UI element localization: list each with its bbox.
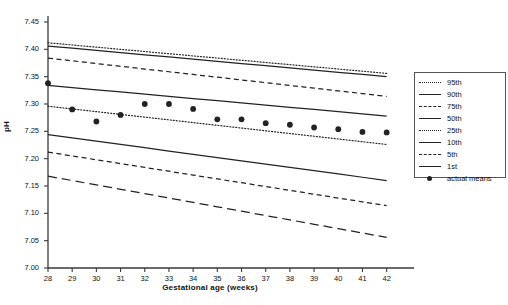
data-point-marker [69,107,75,113]
x-tick-label: 33 [157,274,181,283]
x-tick-label: 37 [254,274,278,283]
legend-item-90th: 90th [418,88,501,100]
legend-item-label: actual means [447,174,492,183]
legend-item-label: 75th [447,102,462,111]
legend-item-25th: 25th [418,124,501,136]
x-tick-label: 40 [326,274,350,283]
series-line-95th [48,43,387,74]
legend-item-label: 50th [447,114,462,123]
legend-item-1st: 1st [418,160,501,172]
data-point-marker [166,101,172,107]
x-tick-label: 30 [84,274,108,283]
x-tick-label: 42 [375,274,399,283]
x-tick-label: 28 [36,274,60,283]
y-tick-label: 7.05 [5,236,39,245]
legend-item-label: 1st [447,162,457,171]
x-tick-label: 41 [350,274,374,283]
data-point-marker [335,126,341,132]
legend-item-actual-means: actual means [418,172,501,184]
x-tick-label: 31 [109,274,133,283]
legend-line-icon [418,137,442,148]
x-tick-label: 38 [278,274,302,283]
data-point-marker [190,106,196,112]
legend-item-10th: 10th [418,136,501,148]
y-tick-label: 7.00 [5,263,39,272]
data-point-marker [287,122,293,128]
y-tick-label: 7.10 [5,208,39,217]
y-tick-label: 7.40 [5,44,39,53]
data-point-marker [239,116,245,122]
legend-item-label: 25th [447,126,462,135]
x-tick-label: 34 [181,274,205,283]
legend-item-50th: 50th [418,112,501,124]
x-tick-label: 36 [230,274,254,283]
y-tick-label: 7.45 [5,17,39,26]
y-tick-label: 7.25 [5,126,39,135]
y-tick-label: 7.20 [5,154,39,163]
data-point-marker [214,116,220,122]
x-tick-label: 35 [205,274,229,283]
legend-line-icon [418,77,442,88]
legend-line-icon [418,125,442,136]
x-axis-title: Gestational age (weeks) [0,283,420,292]
data-point-marker [311,125,317,131]
data-point-marker [142,101,148,107]
legend-item-label: 95th [447,78,462,87]
series-line-10th [48,135,387,181]
legend-line-icon [418,101,442,112]
data-point-marker [360,129,366,135]
x-tick-label: 29 [60,274,84,283]
legend-line-icon [418,89,442,100]
legend-item-label: 5th [447,150,457,159]
data-point-marker [45,80,51,86]
legend-item-label: 10th [447,138,462,147]
y-tick-label: 7.35 [5,72,39,81]
legend-item-label: 90th [447,90,462,99]
data-point-marker [93,119,99,125]
legend-line-icon [418,149,442,160]
data-point-marker [263,120,269,126]
x-tick-label: 39 [302,274,326,283]
y-tick-label: 7.30 [5,99,39,108]
legend-item-75th: 75th [418,100,501,112]
series-line-5th [48,152,387,206]
chart-figure: Gestational age (weeks) pH 7.007.057.107… [0,0,508,305]
legend-line-icon [418,113,442,124]
legend-line-icon [418,161,442,172]
legend-item-5th: 5th [418,148,501,160]
legend-marker-icon [418,173,442,184]
x-tick-label: 32 [133,274,157,283]
series-line-90th [48,46,387,77]
data-point-marker [118,112,124,118]
y-tick-label: 7.15 [5,181,39,190]
chart-legend: 95th90th75th50th25th10th5th1stactual mea… [414,72,506,178]
legend-item-95th: 95th [418,76,501,88]
data-point-marker [384,130,390,136]
series-line-1st [48,176,387,237]
